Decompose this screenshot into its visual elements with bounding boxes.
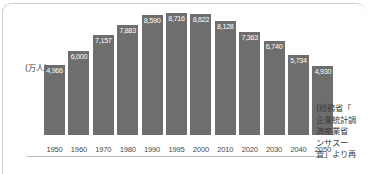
bar: 7,363 [239,32,260,135]
bar-slot: 8,716 [166,13,187,135]
bar-value-label: 7,883 [117,27,138,35]
x-axis-tick-label: 2010 [212,145,239,154]
bar-value-label: 7,363 [239,34,260,42]
bar-slot: 4,966 [44,65,65,135]
bar: 8,128 [215,21,236,135]
bar: 8,716 [166,13,187,135]
bar-value-label: 8,622 [190,16,211,24]
bar-value-label: 4,966 [44,67,65,75]
x-axis-tick-label: 2030 [261,145,288,154]
figure-frame: (万人) 4,96619506,00019607,15719707,883198… [2,3,366,174]
x-axis-tick-label: 2020 [236,145,263,154]
x-axis-tick-label: 1950 [41,145,68,154]
bar-slot: 6,000 [68,51,89,135]
source-note-line: 済産業省 [316,126,368,138]
bar-slot: 7,883 [117,25,138,135]
bar-value-label: 8,590 [142,17,163,25]
source-note: (総務省「企業統計調済産業省ンサスー査」より再 [316,103,368,161]
bar-value-label: 6,740 [264,43,285,51]
bar-slot: 7,363 [239,32,260,135]
bar: 8,622 [190,14,211,135]
bar-value-label: 7,157 [93,37,114,45]
bar-slot: 5,734 [288,55,309,135]
axis-baseline [27,156,319,157]
bar-slot: 8,590 [142,15,163,135]
source-note-line: 査」より再 [316,149,368,161]
bar-slot: 8,622 [190,14,211,135]
bar-value-label: 8,716 [166,15,187,23]
bar: 8,590 [142,15,163,135]
bar: 7,883 [117,25,138,135]
bar: 6,000 [68,51,89,135]
bar-value-label: 6,000 [68,53,89,61]
bar-chart-plot-area: (万人) 4,96619506,00019607,15719707,883198… [15,12,307,157]
bar-slot: 8,128 [215,21,236,135]
source-note-line: (総務省「 [316,103,368,115]
x-axis-tick-label: 1990 [139,145,166,154]
bar-slot: 6,740 [264,41,285,135]
bar-value-label: 5,734 [288,57,309,65]
bar: 7,157 [93,35,114,135]
bar-value-label: 4,930 [312,68,333,76]
x-axis-tick-label: 1995 [163,145,190,154]
bar: 6,740 [264,41,285,135]
x-axis-tick-label: 1980 [114,145,141,154]
x-axis-tick-label: 2040 [285,145,312,154]
source-note-line: 企業統計調 [316,115,368,127]
x-axis-tick-label: 2000 [187,145,214,154]
source-note-line: ンサスー [316,138,368,150]
bar: 4,966 [44,65,65,135]
bar: 5,734 [288,55,309,135]
bar-value-label: 8,128 [215,23,236,31]
x-axis-tick-label: 1970 [90,145,117,154]
bar-slot: 7,157 [93,35,114,135]
x-axis-tick-label: 1960 [65,145,92,154]
